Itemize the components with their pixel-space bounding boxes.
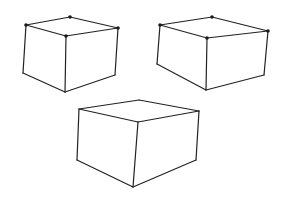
box-edge [66,28,118,36]
box-edge [65,36,66,92]
box-edge [133,122,138,187]
box-edge [196,111,199,160]
box-top-right [157,15,270,90]
vertex-dot [24,23,28,27]
box-edge [160,17,212,25]
box-edge [206,38,207,90]
box-edge [264,31,268,75]
box-edge [79,100,139,109]
sketch-canvas [0,0,281,198]
box-edge [139,100,199,111]
box-edge [133,160,196,187]
box-top-left [23,15,120,92]
vertex-dot [210,15,214,19]
box-edge [26,17,70,25]
box-edge [70,17,118,28]
box-edge [115,28,118,75]
vertex-dot [158,23,162,27]
box-edge [212,17,268,31]
vertex-dot [68,15,72,19]
box-edge [77,109,79,160]
box-edge [160,25,207,38]
box-edge [65,75,115,92]
box-edge [206,75,264,90]
vertex-dot [266,29,270,33]
box-bottom-center [77,100,199,187]
box-edge [79,109,138,122]
box-edge [157,25,160,64]
box-edge [207,31,268,38]
box-edge [26,25,66,36]
vertex-dot [116,26,120,30]
box-edge [23,73,65,92]
box-edge [77,160,133,187]
vertex-dot [64,34,68,38]
box-edge [23,25,26,73]
box-edge [157,64,206,90]
box-edge [138,111,199,122]
vertex-dot [205,36,209,40]
